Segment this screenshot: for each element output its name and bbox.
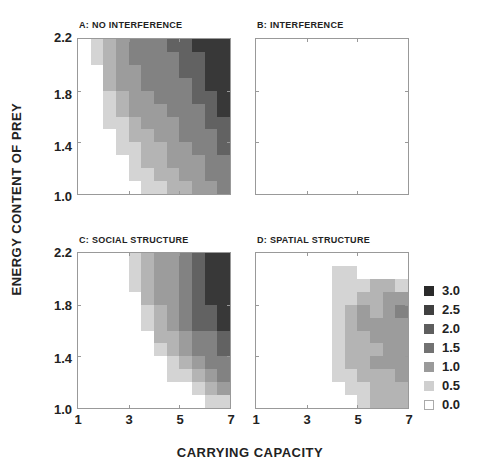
heatmap-cell [91, 181, 104, 194]
heatmap-cell [129, 52, 142, 65]
heatmap-cell [281, 39, 294, 52]
heatmap-cell [91, 129, 104, 142]
heatmap-cell [154, 39, 167, 52]
heatmap-cell [307, 279, 320, 292]
heatmap-cell [383, 343, 396, 356]
heatmap-cell [307, 266, 320, 279]
heatmap-cell [167, 129, 180, 142]
heatmap-cell [78, 52, 91, 65]
heatmap-cell [179, 181, 192, 194]
heatmap-cell [91, 318, 104, 331]
heatmap-cell [192, 181, 205, 194]
heatmap-cell [370, 181, 383, 194]
heatmap-cell [103, 117, 116, 130]
heatmap-cell [154, 117, 167, 130]
heatmap-cell [395, 91, 408, 104]
heatmap-cell [141, 142, 154, 155]
heatmap-cell [179, 395, 192, 408]
heatmap-cell [116, 305, 129, 318]
heatmap-cell [281, 65, 294, 78]
heatmap-cell [256, 142, 269, 155]
heatmap-cell [91, 91, 104, 104]
heatmap-cell [179, 279, 192, 292]
heatmap-cell [370, 369, 383, 382]
heatmap-cell [205, 382, 218, 395]
heatmap-cell [281, 181, 294, 194]
heatmap-cell [154, 65, 167, 78]
heatmap-cell [103, 65, 116, 78]
heatmap-cell [294, 292, 307, 305]
heatmap-cell [345, 266, 358, 279]
heatmap-cell [129, 356, 142, 369]
heatmap-cell [269, 181, 282, 194]
heatmap-cell [167, 292, 180, 305]
heatmap-cell [154, 356, 167, 369]
heatmap-cell [395, 331, 408, 344]
y-tickmark [78, 305, 81, 306]
heatmap-cell [319, 279, 332, 292]
heatmap-cell [192, 129, 205, 142]
heatmap-cell [78, 395, 91, 408]
heatmap-cell [205, 129, 218, 142]
y-tickmark [256, 305, 259, 306]
heatmap-cell [269, 382, 282, 395]
heatmap-cell [141, 155, 154, 168]
heatmap-cell [395, 395, 408, 408]
heatmap-cell [179, 253, 192, 266]
x-tickmark [307, 405, 308, 408]
heatmap-cell [103, 305, 116, 318]
heatmap-cell [345, 155, 358, 168]
heatmap-cell [281, 331, 294, 344]
legend-label-3-0: 3.0 [442, 283, 460, 298]
heatmap-cell [370, 331, 383, 344]
heatmap-cell [192, 253, 205, 266]
heatmap-cell [205, 331, 218, 344]
heatmap-cell [217, 356, 230, 369]
y-tick-top-1-0: 1.0 [38, 189, 72, 204]
heatmap-cell [370, 104, 383, 117]
heatmap-cell [281, 253, 294, 266]
heatmap-cell [357, 279, 370, 292]
heatmap-cell [192, 331, 205, 344]
x-tickmark [357, 253, 358, 256]
heatmap-cell [179, 155, 192, 168]
heatmap-cell [357, 356, 370, 369]
heatmap-cell [116, 279, 129, 292]
x-tickmark [357, 191, 358, 194]
y-tick-bottom-1-0: 1.0 [38, 402, 72, 417]
x-tickmark [129, 191, 130, 194]
heatmap-cell [129, 129, 142, 142]
heatmap-cell [332, 52, 345, 65]
legend-swatch-1-5 [424, 343, 434, 353]
heatmap-cell [78, 305, 91, 318]
x-tickmark [179, 253, 180, 256]
heatmap-cell [345, 104, 358, 117]
heatmap-cell [370, 129, 383, 142]
heatmap-cell [395, 65, 408, 78]
heatmap-cell [307, 292, 320, 305]
heatmap-cell [179, 343, 192, 356]
heatmap-cell [179, 382, 192, 395]
heatmap-cell [319, 382, 332, 395]
heatmap-cell [141, 382, 154, 395]
heatmap-cell [395, 343, 408, 356]
heatmap-cell [103, 78, 116, 91]
x-tickmark [129, 39, 130, 42]
heatmap-cell [167, 331, 180, 344]
heatmap-cell [154, 395, 167, 408]
heatmap-cell [294, 382, 307, 395]
heatmap-cell [154, 181, 167, 194]
heatmap-cell [256, 343, 269, 356]
heatmap-cell [129, 305, 142, 318]
heatmap-cell [167, 266, 180, 279]
heatmap-cell [332, 318, 345, 331]
heatmap-cell [78, 266, 91, 279]
y-tickmark [227, 356, 230, 357]
heatmap-cell [256, 318, 269, 331]
heatmap-cell [205, 52, 218, 65]
heatmap-cell [269, 343, 282, 356]
heatmap-cell [205, 253, 218, 266]
legend-swatch-2-5 [424, 305, 434, 315]
heatmap-cell [383, 129, 396, 142]
heatmap-cell [91, 266, 104, 279]
